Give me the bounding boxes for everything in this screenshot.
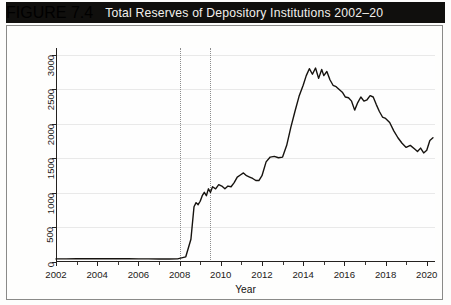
x-tick-2010 (221, 262, 222, 266)
figure-title: Total Reserves of Depository Institution… (105, 6, 383, 20)
series-line-total-reserves (56, 48, 435, 262)
y-tick-label-1500: 1500 (45, 158, 56, 179)
x-tick-label-2010: 2010 (210, 269, 231, 280)
x-tick-minor-2009 (200, 262, 201, 265)
y-tick-label-500: 500 (45, 227, 56, 243)
x-tick-label-2018: 2018 (375, 269, 396, 280)
x-tick-minor-2003 (77, 262, 78, 265)
x-tick-2016 (344, 262, 345, 266)
x-tick-2004 (97, 262, 98, 266)
x-tick-minor-2013 (283, 262, 284, 265)
x-tick-minor-2007 (159, 262, 160, 265)
figure-container: FIGURE 7.4 Total Reserves of Depository … (0, 0, 451, 305)
x-tick-minor-2011 (241, 262, 242, 265)
y-tick-label-3000: 3000 (45, 55, 56, 76)
x-tick-label-2016: 2016 (334, 269, 355, 280)
x-tick-label-2012: 2012 (251, 269, 272, 280)
x-tick-minor-2019 (406, 262, 407, 265)
x-tick-2020 (427, 262, 428, 266)
x-tick-label-2004: 2004 (87, 269, 108, 280)
figure-number: FIGURE 7.4 (6, 4, 93, 22)
plot-area: 050010001500200025003000 200220042006200… (56, 48, 435, 262)
x-tick-2018 (386, 262, 387, 266)
x-tick-label-2002: 2002 (45, 269, 66, 280)
y-tick-label-2000: 2000 (45, 124, 56, 145)
x-tick-label-2008: 2008 (169, 269, 190, 280)
x-tick-2008 (180, 262, 181, 266)
x-tick-minor-2015 (324, 262, 325, 265)
x-tick-2014 (303, 262, 304, 266)
y-tick-label-0: 0 (45, 262, 56, 267)
x-tick-2002 (56, 262, 57, 266)
x-tick-label-2020: 2020 (416, 269, 437, 280)
x-tick-2006 (138, 262, 139, 266)
y-tick-label-2500: 2500 (45, 89, 56, 110)
x-tick-label-2014: 2014 (293, 269, 314, 280)
x-tick-minor-2017 (365, 262, 366, 265)
x-tick-label-2006: 2006 (128, 269, 149, 280)
x-tick-2012 (262, 262, 263, 266)
figure-header-band: FIGURE 7.4 Total Reserves of Depository … (6, 2, 445, 23)
x-tick-minor-2005 (118, 262, 119, 265)
y-tick-label-1000: 1000 (45, 193, 56, 214)
x-axis-title: Year (56, 284, 435, 295)
